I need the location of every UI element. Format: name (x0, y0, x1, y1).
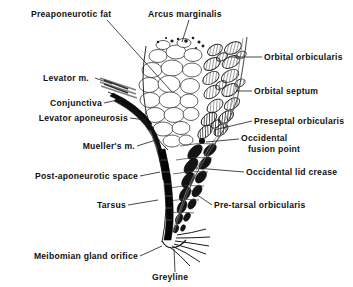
label-pre-tarsal-orbicularis: Pre-tarsal orbicularis (214, 200, 305, 211)
label-tarsus: Tarsus (97, 200, 126, 211)
leader-occidental-fusion-point (206, 139, 239, 142)
label-occidental-fusion-point-line1: Occidental (241, 133, 287, 144)
figure-canvas: Preaponeurotic fat Arcus marginalis Orbi… (0, 0, 353, 287)
label-orbital-septum: Orbital septum (254, 86, 318, 97)
leader-greyline (174, 249, 175, 272)
leader-muellers-muscle (137, 140, 156, 146)
label-preaponeurotic-fat: Preaponeurotic fat (31, 9, 111, 20)
pre-tarsal-orbicularis-structure (172, 142, 218, 234)
label-occidental-fusion-point-line2: fusion point (248, 144, 300, 155)
label-occidental-lid-crease: Occidental lid crease (246, 167, 337, 178)
label-levator-aponeurosis: Levator aponeurosis (39, 113, 128, 124)
eyelashes-structure (170, 229, 210, 266)
label-muellers-muscle: Mueller's m. (83, 141, 135, 152)
label-levator-muscle: Levator m. (43, 73, 89, 84)
label-conjunctiva: Conjunctiva (50, 98, 102, 109)
label-preseptal-orbicularis: Preseptal orbicularis (254, 116, 344, 127)
leader-meibomian-gland-orifice (140, 246, 162, 256)
preaponeurotic-fat-structure (139, 39, 202, 151)
label-greyline: Greyline (152, 272, 188, 283)
label-post-aponeurotic-space: Post-aponeurotic space (35, 171, 138, 182)
leader-post-aponeurotic-space (140, 172, 160, 176)
label-meibomian-gland-orifice: Meibomian gland orifice (34, 251, 138, 262)
label-arcus-marginalis: Arcus marginalis (148, 9, 222, 20)
orbital-orbicularis-structure (200, 39, 247, 116)
label-orbital-orbicularis: Orbital orbicularis (264, 52, 343, 63)
leader-tarsus (128, 200, 158, 205)
